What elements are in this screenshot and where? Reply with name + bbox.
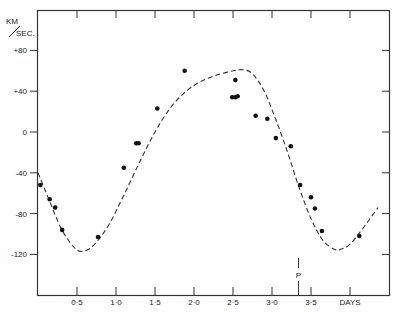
y-tick-label: +80 [13,46,27,55]
x-tick-label: DAYS [339,298,360,307]
velocity-curve [38,70,378,252]
y-tick-label: -120 [11,250,28,259]
data-point [274,136,279,141]
data-point [320,229,325,234]
data-point [38,183,43,188]
data-point [288,144,293,149]
data-point [155,106,160,111]
y-tick-label: +40 [13,87,27,96]
x-axis-ticks: 0·51·01·52·02·53·03·5DAYS [71,10,360,307]
x-tick-label: 0·5 [71,298,83,307]
p-marker-label: P [296,271,301,280]
plot-frame [38,11,390,296]
data-point [233,78,238,83]
data-point [309,195,314,200]
data-point [357,234,362,239]
data-point [136,141,141,146]
y-tick-label: -40 [15,169,27,178]
data-point [122,165,127,170]
observation-points [38,69,362,240]
data-point [182,69,187,74]
data-point [53,205,58,210]
data-point [253,113,258,118]
x-tick-label: 3·5 [305,298,317,307]
y-label-km: KM [6,17,18,26]
x-tick-label: 1·0 [110,298,122,307]
data-point [96,235,101,240]
y-tick-label: -80 [15,210,27,219]
radial-velocity-chart: +80+400-40-80-120 0·51·01·52·02·53·03·5D… [0,0,400,312]
y-tick-label: 0 [23,128,28,137]
x-tick-label: 1·5 [149,298,161,307]
data-point [298,183,303,188]
x-tick-label: 2·0 [188,298,200,307]
data-point [313,206,318,211]
x-tick-label: 2·5 [227,298,239,307]
data-point [47,197,52,202]
y-axis-ticks: +80+400-40-80-120 [11,46,390,259]
p-marker: P [296,258,301,295]
data-point [60,228,65,233]
y-axis-unit-label: KM SEC. [6,17,35,38]
y-label-sec: SEC. [16,29,35,38]
data-point [235,94,240,99]
x-tick-label: 3·0 [266,298,278,307]
data-point [265,116,270,121]
